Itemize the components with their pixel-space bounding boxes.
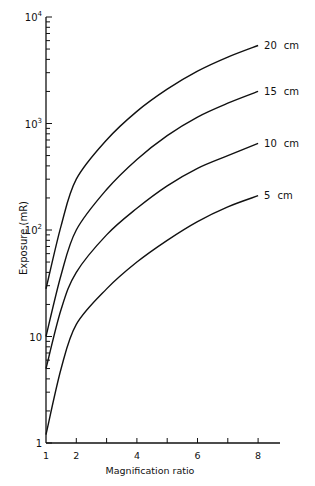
y-tick-label: 104 — [25, 10, 43, 23]
curve-5-cm — [46, 196, 258, 435]
x-tick-label: 6 — [194, 450, 200, 461]
y-tick-label: 1 — [36, 438, 42, 449]
x-tick-label: 1 — [43, 450, 49, 461]
curve-15-cm — [46, 91, 258, 336]
curve-label-10-cm: 10cm — [264, 138, 299, 149]
y-tick-label: 10 — [29, 332, 42, 343]
axes: 11010210310412468 — [25, 10, 280, 461]
curve-label-20-cm: 20cm — [264, 40, 299, 51]
curve-label-5-cm: 5cm — [264, 190, 293, 201]
curve-label-15-cm: 15cm — [264, 86, 299, 97]
curve-20-cm — [46, 46, 258, 289]
x-axis-label: Magnification ratio — [106, 465, 195, 476]
x-tick-label: 4 — [134, 450, 140, 461]
y-tick-label: 103 — [25, 117, 42, 130]
x-tick-label: 2 — [73, 450, 79, 461]
x-tick-label: 8 — [255, 450, 261, 461]
y-axis-label: Exposure (mR) — [18, 201, 29, 275]
exposure-chart: 11010210310412468 20cm15cm10cm5cm Exposu… — [0, 0, 315, 486]
curves: 20cm15cm10cm5cm — [46, 40, 299, 435]
